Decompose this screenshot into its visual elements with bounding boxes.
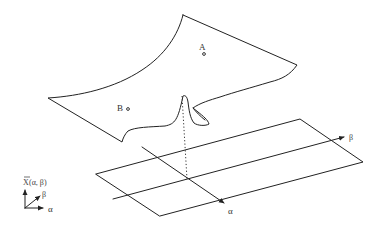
diagram-canvas: A B β α X (α, β) β α xyxy=(0,0,383,230)
surface-outline xyxy=(48,15,297,142)
point-a: A xyxy=(199,42,206,55)
curved-surface xyxy=(48,15,297,142)
alpha-axis-label: α xyxy=(228,206,233,216)
legend-alpha-label: α xyxy=(48,204,53,214)
point-b-marker xyxy=(127,108,130,111)
legend-beta-arrow xyxy=(25,196,40,208)
surface-fold xyxy=(193,108,205,120)
beta-axis-label: β xyxy=(349,133,353,142)
legend-beta-label: β xyxy=(42,190,46,199)
point-b: B xyxy=(117,103,129,113)
point-a-label: A xyxy=(199,42,206,52)
beta-axis-line xyxy=(113,137,344,199)
point-b-label: B xyxy=(117,103,123,113)
legend-vertical-args: (α, β) xyxy=(29,178,47,187)
point-a-marker xyxy=(203,53,206,56)
projection-line xyxy=(182,96,187,179)
coordinate-legend: X (α, β) β α xyxy=(23,177,53,214)
parameter-plane: β α xyxy=(96,119,363,216)
alpha-axis-line xyxy=(142,147,224,203)
